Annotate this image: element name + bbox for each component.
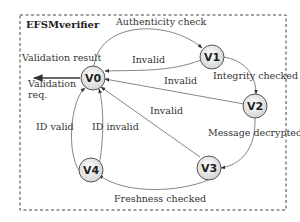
node-v1: V1 (200, 45, 224, 69)
label-validation-req-2: req. (28, 89, 47, 100)
node-v0-label: V0 (85, 72, 102, 85)
label-v2-invalid: Invalid (164, 75, 197, 86)
diagram-title: EFSMverifier (26, 19, 100, 30)
node-v1-label: V1 (204, 51, 220, 64)
edge-v2-v3 (221, 118, 255, 168)
label-integrity-checked: Integrity checked (213, 70, 298, 81)
node-v2: V2 (243, 94, 267, 118)
efsm-verifier-diagram: EFSMverifier Validation result Validatio… (0, 0, 300, 222)
edge-v3-v4 (99, 175, 208, 190)
label-validation-req-1: Validation (27, 78, 76, 89)
node-v0: V0 (81, 66, 105, 90)
label-validation-result: Validation result (21, 52, 101, 63)
node-v4: V4 (79, 158, 103, 182)
node-v2-label: V2 (247, 100, 263, 113)
label-id-valid: ID valid (36, 121, 74, 132)
label-v1-invalid: Invalid (132, 54, 165, 65)
node-v4-label: V4 (83, 164, 100, 177)
label-authenticity-check: Authenticity check (115, 16, 206, 27)
label-v3-invalid: Invalid (150, 105, 183, 116)
node-v3: V3 (197, 156, 221, 180)
label-freshness-checked: Freshness checked (114, 193, 206, 204)
label-id-invalid: ID invalid (92, 121, 139, 132)
label-message-decrypted: Message decrypted (208, 127, 300, 138)
node-v3-label: V3 (201, 162, 217, 175)
